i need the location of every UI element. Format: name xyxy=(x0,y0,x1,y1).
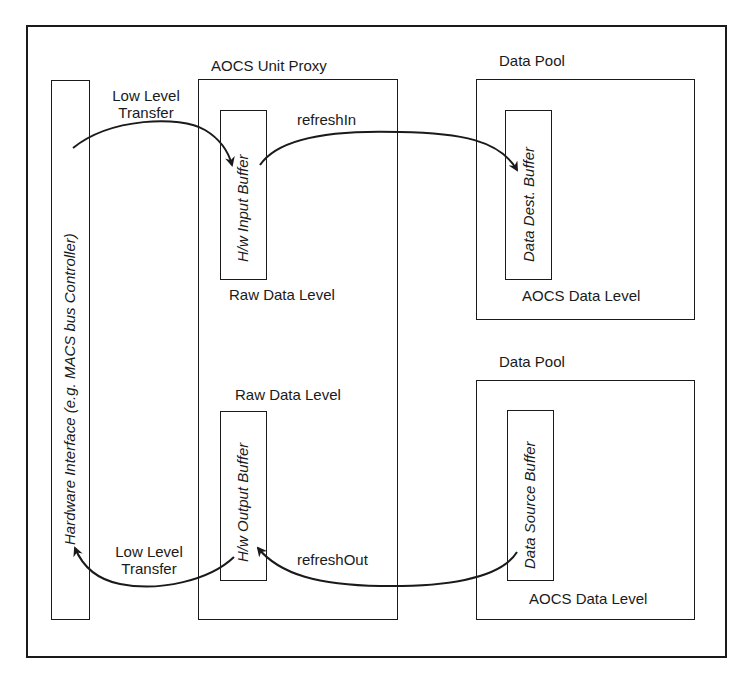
low-level-transfer-bottom-line1: Low Level xyxy=(107,543,191,560)
raw-data-level-label-top: Raw Data Level xyxy=(229,286,335,303)
hardware-interface-label: Hardware Interface (e.g. MACS bus Contro… xyxy=(61,233,78,545)
low-level-transfer-label-bottom: Low Level Transfer xyxy=(107,543,191,577)
data-pool-bottom-title: Data Pool xyxy=(499,353,565,370)
refresh-out-label: refreshOut xyxy=(297,551,368,568)
low-level-transfer-top-line1: Low Level xyxy=(104,87,188,104)
low-level-transfer-label-top: Low Level Transfer xyxy=(104,87,188,121)
hw-input-buffer-label: H/w Input Buffer xyxy=(234,154,251,262)
low-level-transfer-bottom-line2: Transfer xyxy=(107,560,191,577)
raw-data-level-label-bottom: Raw Data Level xyxy=(235,386,341,403)
aocs-data-level-label-bottom: AOCS Data Level xyxy=(529,590,647,607)
refresh-in-label: refreshIn xyxy=(297,111,356,128)
data-source-buffer-label: Data Source Buffer xyxy=(521,441,538,569)
aocs-unit-proxy-title: AOCS Unit Proxy xyxy=(211,57,327,74)
data-pool-top-title: Data Pool xyxy=(499,52,565,69)
hw-output-buffer-label: H/w Output Buffer xyxy=(234,443,251,562)
low-level-transfer-top-line2: Transfer xyxy=(104,104,188,121)
data-dest-buffer-label: Data Dest. Buffer xyxy=(520,147,537,262)
aocs-data-level-label-top: AOCS Data Level xyxy=(522,287,640,304)
